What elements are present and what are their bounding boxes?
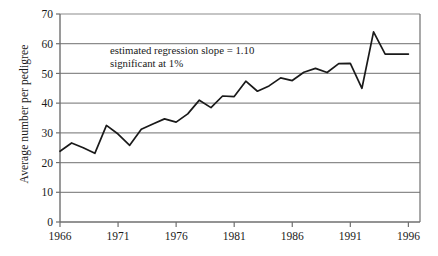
x-tick-label: 1996 xyxy=(397,230,420,242)
y-tick-label: 10 xyxy=(42,186,54,198)
x-tick-label: 1966 xyxy=(49,230,72,242)
gridlines-group xyxy=(60,14,420,222)
x-tick-label: 1976 xyxy=(165,230,188,242)
y-tick-label: 50 xyxy=(42,68,54,80)
chart-figure: Average number per pedigree estimated re… xyxy=(0,0,438,256)
y-tick-label: 20 xyxy=(42,157,54,169)
x-tick-label: 1981 xyxy=(223,230,246,242)
y-tick-label: 30 xyxy=(42,127,54,139)
data-series-line xyxy=(60,32,408,154)
y-tick-label: 60 xyxy=(42,38,54,50)
x-tick-marks-group xyxy=(60,222,408,227)
y-tick-labels-group: 010203040506070 xyxy=(42,8,61,228)
x-tick-labels-group: 1966197119761981198619911996 xyxy=(49,230,421,242)
y-tick-label: 0 xyxy=(47,216,53,228)
line-chart-plot: 010203040506070 196619711976198119861991… xyxy=(0,0,438,256)
x-tick-label: 1986 xyxy=(281,230,304,242)
y-tick-label: 70 xyxy=(42,8,54,20)
x-tick-label: 1991 xyxy=(339,230,362,242)
y-tick-label: 40 xyxy=(42,97,54,109)
x-tick-label: 1971 xyxy=(107,230,130,242)
